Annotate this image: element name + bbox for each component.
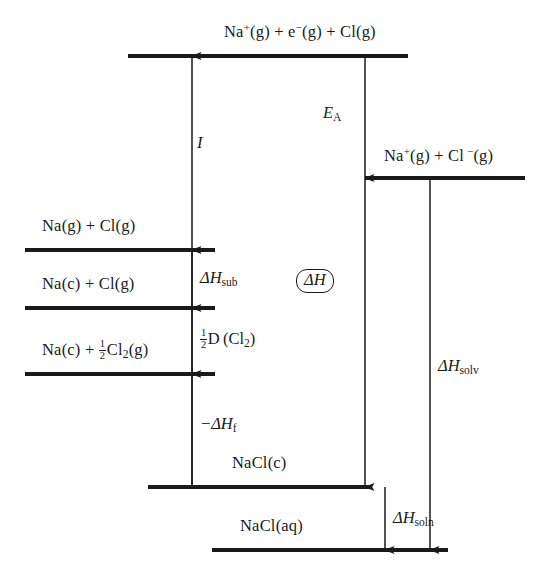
arrow-label-half-dissociation-cl2: 12D (Cl2): [200, 329, 255, 351]
level-label-na-g-cl-g: Na(g) + Cl(g): [42, 216, 135, 236]
arrow-label-electron-affinity: EA: [323, 103, 341, 123]
arrow-label-neg-enthalpy-formation: −ΔHf: [200, 414, 237, 434]
arrow-label-enthalpy-solvation: ΔHsolv: [438, 356, 479, 376]
energy-level-diagram: Na+(g) + e−(g) + Cl(g) Na+(g) + Cl −(g) …: [0, 0, 549, 581]
level-line-layer: [25, 56, 525, 550]
arrow-layer: [192, 56, 430, 550]
level-label-nacl-aq: NaCl(aq): [240, 516, 303, 536]
level-label-na-c-cl-g: Na(c) + Cl(g): [42, 274, 135, 294]
level-label-na-plus-cl-minus: Na+(g) + Cl −(g): [384, 146, 493, 166]
arrow-label-enthalpy-sublimation: ΔHsub: [200, 268, 238, 288]
arrow-label-ionization-energy: I: [197, 133, 203, 153]
level-label-nacl-c: NaCl(c): [232, 453, 287, 473]
arrow-label-enthalpy-solution: ΔHsoln: [393, 508, 434, 528]
level-label-na-c-half-cl2-g: Na(c) + 12Cl2(g): [42, 340, 148, 362]
arrow-label-enthalpy-lattice: ΔH: [296, 269, 334, 293]
level-label-na-plus-e-minus-cl: Na+(g) + e−(g) + Cl(g): [224, 22, 376, 42]
